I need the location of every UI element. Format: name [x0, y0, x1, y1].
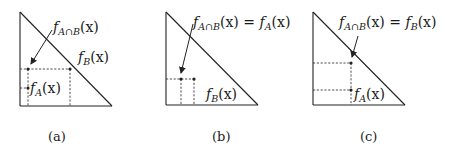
panel-c: fA∩B(x) = fB(x) fA(x) (c)	[313, 12, 436, 144]
label-f-intersection-eq-fa: fA∩B(x) = fA(x)	[192, 14, 290, 32]
intersection-dot	[26, 67, 29, 70]
label-f-b: fB(x)	[205, 86, 237, 104]
panel-b: fA∩B(x) = fA(x) fB(x) (b)	[166, 12, 290, 144]
intersection-dot	[179, 77, 182, 80]
caption-a: (a)	[48, 129, 66, 144]
fuzzy-intersection-figure: fA∩B(x) fB(x) fA(x) (a) fA∩B(x) = fA(x) …	[0, 0, 453, 155]
arrow-icon	[181, 24, 193, 73]
label-f-a: fA(x)	[353, 86, 385, 104]
panel-a: fA∩B(x) fB(x) fA(x) (a)	[20, 12, 112, 144]
label-f-a: fA(x)	[29, 80, 61, 98]
fb-dot	[68, 67, 71, 70]
arrow-icon	[31, 30, 52, 64]
label-f-intersection: fA∩B(x)	[52, 19, 99, 37]
fa-dot	[349, 88, 352, 91]
fb-dot	[192, 77, 195, 80]
caption-b: (b)	[212, 129, 230, 144]
caption-c: (c)	[360, 129, 377, 144]
label-f-intersection-eq-fb: fA∩B(x) = fB(x)	[338, 14, 436, 32]
label-f-b: fB(x)	[77, 49, 109, 67]
intersection-dot	[349, 61, 352, 64]
